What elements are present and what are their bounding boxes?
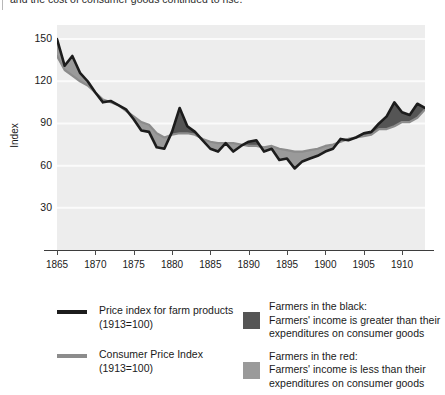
x-tick-label: 1885 bbox=[193, 259, 227, 270]
legend-series-label: Price index for farm products(1913=100) bbox=[99, 304, 237, 331]
x-tick-mark bbox=[134, 250, 135, 255]
x-tick-mark bbox=[249, 250, 250, 255]
caption-rule bbox=[2, 0, 3, 10]
legend-fill-label: Farmers in the red:Farmers' income is le… bbox=[269, 350, 443, 391]
caption-text: and the cost of consumer goods continued… bbox=[10, 0, 242, 5]
x-tick-mark bbox=[95, 250, 96, 255]
y-axis-tick-labels: 150120906030 bbox=[18, 12, 52, 290]
chart-legend: Price index for farm products(1913=100)C… bbox=[0, 300, 445, 390]
legend-series-label: Consumer Price Index(1913=100) bbox=[99, 348, 237, 375]
x-axis-line bbox=[44, 250, 434, 251]
y-tick-label: 60 bbox=[22, 159, 52, 171]
x-tick-label: 1875 bbox=[117, 259, 151, 270]
legend-fill-item: Farmers in the red:Farmers' income is le… bbox=[243, 350, 443, 391]
x-tick-mark bbox=[325, 250, 326, 255]
legend-series-item: Price index for farm products(1913=100) bbox=[57, 304, 237, 331]
y-tick-label: 30 bbox=[22, 201, 52, 213]
chart-svg bbox=[57, 25, 425, 250]
legend-series-group: Price index for farm products(1913=100)C… bbox=[57, 304, 237, 392]
x-tick-mark bbox=[172, 250, 173, 255]
y-tick-label: 120 bbox=[22, 74, 52, 86]
x-tick-label: 1895 bbox=[270, 259, 304, 270]
x-tick-label: 1870 bbox=[78, 259, 112, 270]
legend-series-item: Consumer Price Index(1913=100) bbox=[57, 348, 237, 375]
chart-figure: Index 150120906030 186518701875188018851… bbox=[0, 12, 445, 290]
y-tick-label: 150 bbox=[22, 32, 52, 44]
x-tick-mark bbox=[57, 250, 58, 255]
x-tick-label: 1880 bbox=[155, 259, 189, 270]
red-fill-swatch bbox=[243, 362, 260, 379]
x-tick-label: 1905 bbox=[347, 259, 381, 270]
series-line-consumer-price-index bbox=[57, 56, 425, 152]
farm-products-line-swatch bbox=[57, 310, 87, 314]
x-tick-mark bbox=[210, 250, 211, 255]
x-tick-label: 1865 bbox=[40, 259, 74, 270]
x-tick-mark bbox=[402, 250, 403, 255]
x-tick-label: 1890 bbox=[232, 259, 266, 270]
x-tick-mark bbox=[364, 250, 365, 255]
legend-fill-item: Farmers in the black:Farmers' income is … bbox=[243, 300, 443, 341]
plot-area bbox=[57, 25, 425, 250]
x-tick-label: 1900 bbox=[308, 259, 342, 270]
legend-fill-group: Farmers in the black:Farmers' income is … bbox=[243, 300, 443, 395]
caption-strip: and the cost of consumer goods continued… bbox=[0, 0, 445, 12]
cpi-line-swatch bbox=[57, 354, 87, 358]
legend-fill-label: Farmers in the black:Farmers' income is … bbox=[269, 300, 443, 341]
chart-page: and the cost of consumer goods continued… bbox=[0, 0, 445, 395]
y-tick-label: 90 bbox=[22, 116, 52, 128]
x-tick-mark bbox=[287, 250, 288, 255]
x-tick-label: 1910 bbox=[385, 259, 419, 270]
black-fill-swatch bbox=[243, 312, 260, 329]
